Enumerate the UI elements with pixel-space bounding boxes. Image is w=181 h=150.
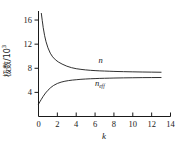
y-tick-label: 8	[28, 63, 32, 73]
x-tick-label: 2	[55, 119, 59, 129]
axes	[39, 11, 171, 117]
curve-n_eff	[39, 78, 162, 105]
x-tick-label: 10	[129, 119, 138, 129]
curve-label-n: n	[99, 55, 103, 65]
chart-figure: 极数/103 481216 02468101214 nneff k	[0, 0, 181, 150]
curve-annotations: nneff	[95, 55, 106, 90]
x-axis-ticks: 02468101214	[36, 113, 175, 130]
y-tick-label: 16	[24, 15, 33, 25]
plot-canvas: 481216 02468101214 nneff k	[0, 0, 181, 150]
x-tick-label: 8	[112, 119, 116, 129]
y-tick-label: 12	[24, 39, 33, 49]
y-axis-ticks: 481216	[24, 15, 39, 97]
x-tick-label: 14	[166, 119, 175, 129]
curve-label-n_eff: neff	[95, 78, 106, 89]
x-tick-label: 4	[74, 119, 79, 129]
x-axis-title: k	[102, 131, 107, 141]
x-tick-label: 6	[93, 119, 97, 129]
x-tick-label: 0	[36, 119, 40, 129]
y-tick-label: 4	[28, 87, 33, 97]
x-tick-label: 12	[147, 119, 156, 129]
